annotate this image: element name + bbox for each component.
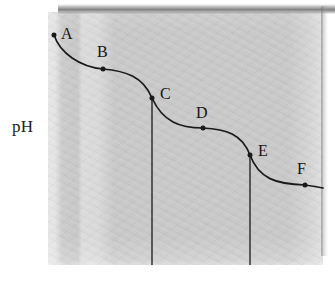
data-point-d [201, 126, 206, 131]
point-label-c: C [160, 86, 171, 102]
point-label-d: D [196, 105, 208, 121]
point-label-e: E [258, 143, 268, 159]
data-point-f [303, 183, 308, 188]
data-point-e [248, 153, 253, 158]
data-point-c [150, 96, 155, 101]
data-point-b [101, 67, 106, 72]
data-point-dots [52, 33, 308, 188]
titration-curve-path [54, 35, 323, 188]
point-label-b: B [97, 44, 108, 60]
point-label-f: F [297, 161, 306, 177]
data-point-a [52, 33, 57, 38]
point-label-a: A [61, 26, 73, 42]
equivalence-drop-lines [152, 100, 250, 265]
